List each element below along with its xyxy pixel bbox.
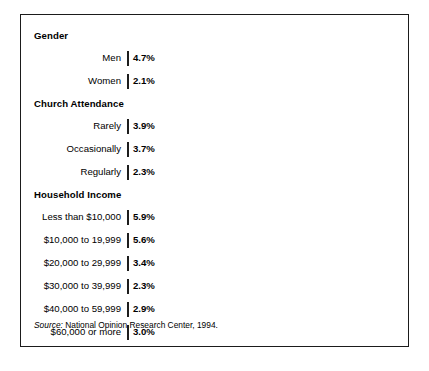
category-label: Rarely xyxy=(93,120,121,131)
category-label: $30,000 to 39,999 xyxy=(44,280,121,291)
bar-value-label: 2.9% xyxy=(133,303,155,314)
category-label: Occasionally xyxy=(67,143,121,154)
bar-row: $30,000 to 39,9992.3% xyxy=(21,279,408,294)
bar-row: Rarely3.9% xyxy=(21,119,408,134)
category-label: $10,000 to 19,999 xyxy=(44,234,121,245)
group-title-2: Church Attendance xyxy=(34,98,124,109)
bar xyxy=(127,51,129,66)
category-label: Men xyxy=(102,52,121,63)
group-title-3: Household Income xyxy=(34,189,121,200)
bar-value-label: 5.9% xyxy=(133,211,155,222)
category-label: Less than $10,000 xyxy=(42,211,121,222)
bar-value-label: 5.6% xyxy=(133,234,155,245)
bar-row: $40,000 to 59,9992.9% xyxy=(21,302,408,317)
bar xyxy=(127,302,129,317)
chart-frame: GenderMen4.7%Women2.1%Church AttendanceR… xyxy=(20,14,409,347)
bar xyxy=(127,233,129,248)
bar-row: Regularly2.3% xyxy=(21,165,408,180)
bar-row: Men4.7% xyxy=(21,51,408,66)
bar xyxy=(127,256,129,271)
category-label: $40,000 to 59,999 xyxy=(44,303,121,314)
category-label: $20,000 to 29,999 xyxy=(44,257,121,268)
bar-chart-plot: GenderMen4.7%Women2.1%Church AttendanceR… xyxy=(21,15,408,346)
category-label: Women xyxy=(88,75,121,86)
bar-row: $10,000 to 19,9995.6% xyxy=(21,233,408,248)
bar xyxy=(127,279,129,294)
bar xyxy=(127,119,129,134)
source-text: National Opinion Research Center, 1994. xyxy=(63,320,218,330)
bar-value-label: 2.1% xyxy=(133,75,155,86)
bar-value-label: 2.3% xyxy=(133,166,155,177)
bar-value-label: 3.9% xyxy=(133,120,155,131)
bar-row: Occasionally3.7% xyxy=(21,142,408,157)
bar xyxy=(127,210,129,225)
bar xyxy=(127,165,129,180)
bar-value-label: 3.4% xyxy=(133,257,155,268)
bar-value-label: 3.7% xyxy=(133,143,155,154)
group-title-1: Gender xyxy=(34,30,68,41)
bar xyxy=(127,142,129,157)
bar-value-label: 4.7% xyxy=(133,52,155,63)
bar xyxy=(127,74,129,89)
category-label: Regularly xyxy=(80,166,121,177)
bar-row: Less than $10,0005.9% xyxy=(21,210,408,225)
source-note: Source: National Opinion Research Center… xyxy=(34,320,218,330)
source-label: Source: xyxy=(34,320,63,330)
bar-value-label: 2.3% xyxy=(133,280,155,291)
bar-row: Women2.1% xyxy=(21,74,408,89)
bar-row: $20,000 to 29,9993.4% xyxy=(21,256,408,271)
